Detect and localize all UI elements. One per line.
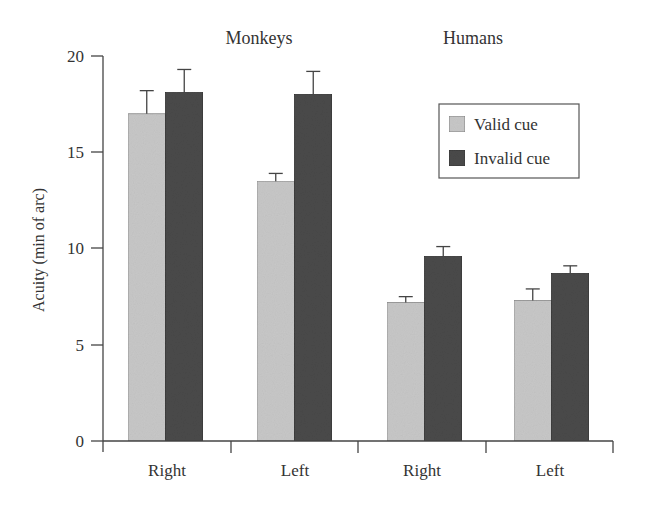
group-label-monkeys: Monkeys	[226, 28, 293, 48]
bar-chart: Monkeys Humans Acuity (min of arc) 20 15…	[0, 0, 646, 505]
bar-humans-left-valid	[514, 300, 552, 441]
error-bar	[436, 247, 450, 257]
error-bar	[140, 91, 154, 114]
group-label-humans: Humans	[443, 28, 503, 48]
x-label-humans-left: Left	[536, 461, 565, 480]
y-axis	[91, 56, 103, 452]
legend-swatch-valid	[449, 116, 465, 132]
bar-monkeys-left-valid	[257, 181, 295, 441]
legend-swatch-invalid	[449, 150, 465, 166]
error-bar	[306, 71, 320, 94]
y-tick-0: 0	[76, 432, 85, 451]
bar-monkeys-left-invalid	[295, 95, 333, 442]
bar-monkeys-right-valid	[128, 114, 166, 441]
y-tick-labels: 20 15 10 5 0	[67, 47, 84, 451]
error-bar	[269, 173, 283, 181]
x-axis	[103, 441, 613, 453]
x-label-monkeys-right: Right	[148, 461, 186, 480]
x-label-humans-right: Right	[403, 461, 441, 480]
bar-monkeys-right-invalid	[166, 93, 204, 441]
bar-humans-right-valid	[387, 302, 425, 441]
bar-humans-left-invalid	[552, 274, 590, 441]
legend: Valid cue Invalid cue	[439, 104, 579, 178]
x-tick-labels: Right Left Right Left	[148, 461, 564, 480]
y-tick-10: 10	[67, 239, 84, 258]
y-tick-5: 5	[76, 336, 85, 355]
legend-label-invalid: Invalid cue	[474, 149, 550, 168]
y-axis-title: Acuity (min of arc)	[30, 188, 48, 312]
error-bar	[563, 266, 577, 274]
y-tick-20: 20	[67, 47, 84, 66]
error-bar	[399, 297, 413, 303]
error-bar	[526, 289, 540, 301]
y-tick-15: 15	[67, 143, 84, 162]
legend-label-valid: Valid cue	[474, 115, 538, 134]
error-bar	[177, 69, 191, 92]
bar-humans-right-invalid	[425, 256, 463, 441]
x-label-monkeys-left: Left	[281, 461, 310, 480]
